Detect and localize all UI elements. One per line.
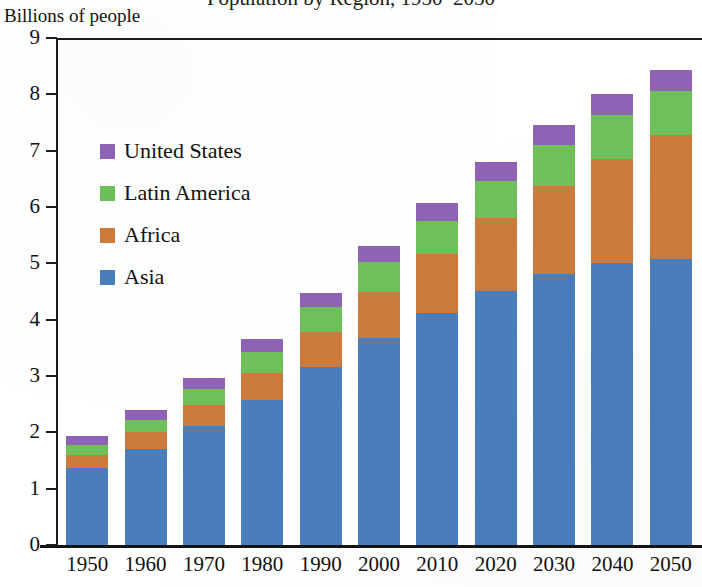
y-axis-tick-label: 2: [0, 421, 40, 442]
legend-swatch-icon: [100, 270, 115, 285]
bar-1990: [300, 293, 342, 545]
bar-segment-africa: [125, 432, 167, 448]
legend-label: Asia: [124, 265, 164, 289]
legend-swatch-icon: [100, 186, 115, 201]
bar-segment-africa: [358, 292, 400, 338]
bar-segment-united-states: [475, 162, 517, 181]
legend-item-latin-america[interactable]: Latin America: [100, 172, 250, 214]
y-axis-tick: [46, 93, 57, 95]
bar-segment-africa: [183, 405, 225, 426]
y-axis-tick-label: 4: [0, 309, 40, 330]
bar-segment-united-states: [591, 94, 633, 115]
bar-segment-united-states: [358, 246, 400, 262]
legend-swatch-icon: [100, 228, 115, 243]
bar-segment-asia: [475, 291, 517, 545]
y-axis-tick: [46, 262, 57, 264]
bar-segment-latin-america: [591, 115, 633, 158]
legend-item-united-states[interactable]: United States: [100, 130, 250, 172]
bar-segment-latin-america: [650, 91, 692, 135]
bar-segment-united-states: [533, 125, 575, 145]
bar-1980: [241, 339, 283, 545]
bar-segment-africa: [241, 373, 283, 400]
bar-segment-latin-america: [475, 181, 517, 219]
bar-segment-asia: [66, 468, 108, 545]
bar-2000: [358, 246, 400, 545]
legend-item-asia[interactable]: Asia: [100, 256, 250, 298]
bar-segment-africa: [533, 186, 575, 274]
bar-segment-africa: [650, 135, 692, 259]
chart-legend: United StatesLatin AmericaAfricaAsia: [100, 130, 250, 298]
bar-2020: [475, 162, 517, 545]
y-axis-tick: [46, 431, 57, 433]
bar-segment-asia: [300, 367, 342, 545]
y-axis-tick: [46, 150, 57, 152]
y-axis-tick-label: 1: [0, 478, 40, 499]
y-axis-tick-label: 9: [0, 27, 40, 48]
bar-segment-united-states: [66, 436, 108, 445]
bar-2010: [416, 203, 458, 545]
bar-segment-asia: [650, 259, 692, 545]
bar-segment-asia: [125, 449, 167, 545]
y-axis-title: Billions of people: [4, 5, 140, 26]
y-axis-tick: [46, 488, 57, 490]
bar-segment-united-states: [183, 378, 225, 389]
bar-segment-united-states: [650, 70, 692, 91]
y-axis-tick-label: 0: [0, 534, 40, 555]
x-axis-tick-label: 2050: [636, 552, 702, 576]
y-axis-tick-label: 8: [0, 83, 40, 104]
bar-2030: [533, 125, 575, 545]
bar-segment-asia: [591, 263, 633, 545]
bar-segment-united-states: [300, 293, 342, 307]
bar-segment-africa: [300, 332, 342, 367]
legend-swatch-icon: [100, 144, 115, 159]
legend-label: United States: [124, 139, 242, 163]
bar-segment-united-states: [241, 339, 283, 352]
bar-segment-united-states: [125, 410, 167, 420]
bar-segment-latin-america: [358, 262, 400, 291]
bar-segment-asia: [183, 426, 225, 545]
y-axis-tick: [46, 37, 57, 39]
y-axis-tick-label: 7: [0, 140, 40, 161]
bar-1950: [66, 436, 108, 545]
y-axis-tick: [46, 206, 57, 208]
bar-segment-latin-america: [183, 389, 225, 405]
bar-1970: [183, 378, 225, 545]
bar-segment-africa: [416, 254, 458, 313]
y-axis-tick: [46, 319, 57, 321]
bar-segment-latin-america: [533, 145, 575, 186]
bar-segment-asia: [533, 274, 575, 545]
bar-segment-united-states: [416, 203, 458, 220]
bar-segment-latin-america: [125, 420, 167, 432]
bar-segment-latin-america: [66, 445, 108, 455]
bar-segment-africa: [591, 159, 633, 263]
bar-segment-asia: [241, 400, 283, 545]
bar-segment-latin-america: [416, 221, 458, 255]
legend-label: Africa: [124, 223, 180, 247]
bar-segment-latin-america: [241, 352, 283, 372]
bar-segment-asia: [358, 338, 400, 545]
bar-segment-africa: [66, 455, 108, 468]
y-axis-tick: [46, 375, 57, 377]
y-axis-tick-label: 3: [0, 365, 40, 386]
bar-segment-asia: [416, 313, 458, 545]
legend-item-africa[interactable]: Africa: [100, 214, 250, 256]
y-axis-tick-label: 5: [0, 252, 40, 273]
x-axis-line: [40, 545, 702, 548]
bar-segment-africa: [475, 218, 517, 291]
bar-2050: [650, 70, 692, 545]
y-axis-tick: [46, 544, 57, 546]
legend-label: Latin America: [124, 181, 250, 205]
chart-canvas: Population by Region, 1950–2050 Billions…: [0, 0, 702, 587]
bar-1960: [125, 410, 167, 545]
bar-2040: [591, 94, 633, 545]
bar-segment-latin-america: [300, 307, 342, 332]
y-axis-tick-label: 6: [0, 196, 40, 217]
